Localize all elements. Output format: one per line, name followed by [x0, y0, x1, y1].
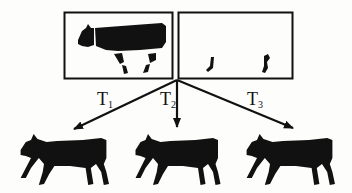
cow-pose-3-icon [247, 134, 335, 185]
transform-label-t3: T3 [247, 90, 263, 114]
source-panel-legs [179, 13, 293, 79]
cow-pose-1-icon [21, 134, 109, 185]
source-panel-body [65, 13, 173, 79]
cow-leg-part-icon [206, 54, 270, 73]
cow-body-part-icon [78, 23, 166, 74]
diagram-canvas [0, 0, 352, 193]
transform-label-t2: T2 [160, 90, 176, 114]
transform-label-t1: T1 [97, 90, 113, 114]
cow-pose-2-icon [136, 134, 221, 185]
